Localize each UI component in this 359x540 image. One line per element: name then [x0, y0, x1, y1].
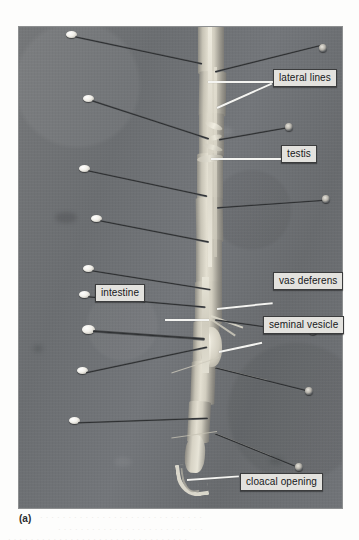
- lateral-line-strand: [214, 67, 217, 257]
- pin-head-icon: [322, 195, 330, 203]
- figure-page: · · · · · · · · · · · · · · · · · · · · …: [0, 0, 359, 540]
- specimen-segment: [199, 71, 227, 117]
- label-lateral-lines[interactable]: lateral lines: [273, 69, 337, 87]
- label-intestine[interactable]: intestine: [95, 284, 145, 302]
- intestine-tube: [202, 277, 209, 373]
- dissection-photograph: [19, 27, 342, 508]
- figure-caption: (a): [19, 513, 31, 524]
- pin-head-icon: [305, 387, 313, 395]
- pin-head-icon: [295, 463, 303, 471]
- pin-head-icon: [285, 123, 293, 131]
- label-seminal-vesicle[interactable]: seminal vesicle: [263, 316, 344, 334]
- leader-line-intestine: [165, 319, 209, 321]
- label-testis[interactable]: testis: [281, 145, 317, 163]
- specimen-body: [19, 27, 342, 508]
- label-cloacal-opening[interactable]: cloacal opening: [240, 473, 323, 491]
- pin-head-icon: [319, 44, 327, 52]
- leader-line-testis: [211, 158, 281, 160]
- bleed-through-line-1: · · · · · · · · · · · · · · · · · · · · …: [40, 512, 355, 524]
- label-vas-deferens[interactable]: vas deferens: [273, 272, 343, 290]
- leader-line-lateral-lines: [208, 81, 273, 83]
- bleed-through-line-3: · · · · · · · · · · · · · · · · · · · · …: [8, 534, 355, 540]
